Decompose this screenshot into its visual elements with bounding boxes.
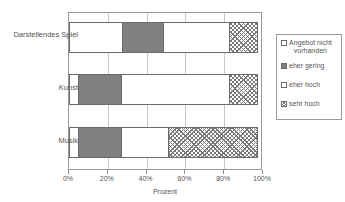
category-label-musik: Musik bbox=[58, 136, 78, 145]
legend-swatch-white-square-icon bbox=[281, 82, 287, 88]
tick-label-80: 80% bbox=[208, 175, 238, 182]
bar-segment-eher-gering[interactable] bbox=[122, 22, 164, 53]
legend-label-line2: vorhanden bbox=[289, 47, 332, 55]
tick-mark-20 bbox=[107, 170, 108, 174]
category-label-darstellendes-spiel: Darstellendes Spiel bbox=[13, 30, 78, 39]
tick-mark-60 bbox=[184, 170, 185, 174]
legend-item-sehr-hoch[interactable]: sehr hoch bbox=[281, 100, 338, 108]
tick-label-100: 100% bbox=[247, 175, 277, 182]
legend-label-eher-gering: eher gering bbox=[289, 62, 324, 70]
legend-swatch-gray-square-icon bbox=[281, 63, 287, 69]
legend: Angebot nichtvorhanden eher gering eher … bbox=[276, 34, 342, 120]
category-label-kunst: Kunst bbox=[59, 83, 78, 92]
legend-item-eher-gering[interactable]: eher gering bbox=[281, 62, 338, 70]
tick-mark-0 bbox=[68, 170, 69, 174]
tick-label-60: 60% bbox=[169, 175, 199, 182]
legend-swatch-white-square-icon bbox=[281, 40, 287, 46]
bar-musik[interactable] bbox=[69, 127, 261, 158]
bar-segment-eher-gering[interactable] bbox=[78, 74, 122, 105]
bar-segment-sehr-hoch[interactable] bbox=[168, 127, 258, 158]
bar-segment-eher-hoch[interactable] bbox=[121, 127, 169, 158]
tick-label-40: 40% bbox=[131, 175, 161, 182]
legend-item-eher-hoch[interactable]: eher hoch bbox=[281, 81, 338, 89]
legend-item-angebot-nicht-vorhanden[interactable]: Angebot nichtvorhanden bbox=[281, 39, 338, 55]
bar-segment-sehr-hoch[interactable] bbox=[229, 22, 258, 53]
bar-kunst[interactable] bbox=[69, 74, 261, 105]
tick-label-20: 20% bbox=[92, 175, 122, 182]
bar-segment-eher-gering[interactable] bbox=[78, 127, 122, 158]
tick-mark-80 bbox=[223, 170, 224, 174]
tick-mark-100 bbox=[262, 170, 263, 174]
legend-label-eher-hoch: eher hoch bbox=[289, 81, 320, 89]
bar-segment-sehr-hoch[interactable] bbox=[229, 74, 258, 105]
x-axis-title: Prozent bbox=[68, 188, 262, 195]
legend-label-sehr-hoch: sehr hoch bbox=[289, 100, 320, 108]
bar-segment-eher-hoch[interactable] bbox=[121, 74, 230, 105]
tick-mark-40 bbox=[146, 170, 147, 174]
stacked-bar-chart: Darstellendes Spiel Kunst Musik 0% 20% 4… bbox=[0, 0, 345, 202]
legend-label-line1: Angebot nicht bbox=[289, 39, 332, 46]
tick-label-0: 0% bbox=[53, 175, 83, 182]
legend-swatch-hatched-square-icon bbox=[281, 101, 287, 107]
plot-area bbox=[68, 12, 262, 170]
bar-segment-eher-hoch[interactable] bbox=[163, 22, 230, 53]
bar-darstellendes-spiel[interactable] bbox=[69, 22, 261, 53]
